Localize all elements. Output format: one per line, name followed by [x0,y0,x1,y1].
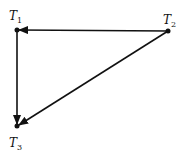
node-t3 [15,124,20,129]
node-t1 [15,28,20,33]
edge-t2-to-t1 [19,30,168,31]
graph-edges [0,0,186,157]
node-label-t3: T3 [9,137,22,152]
node-label-t1: T1 [9,10,22,25]
node-label-t2: T2 [163,14,176,29]
edge-t2-to-t3 [19,31,168,125]
precedence-graph: T1 T2 T3 [0,0,186,157]
